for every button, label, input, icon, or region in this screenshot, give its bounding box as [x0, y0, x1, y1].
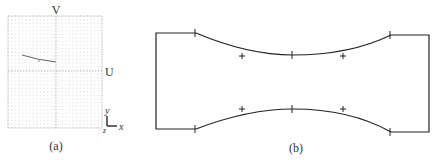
center-markers	[239, 53, 346, 112]
triad-x-label: x	[118, 121, 124, 132]
figure: V U y x z (a) (b)	[0, 0, 437, 165]
u-axis-label: U	[105, 65, 114, 79]
panel-a-grid	[8, 16, 102, 128]
triad-y-label: y	[104, 105, 110, 116]
triad-z-label: z	[102, 126, 107, 135]
v-axis-label: V	[52, 3, 61, 17]
coordinate-triad: y x z	[102, 105, 124, 135]
caption-b: (b)	[289, 141, 303, 155]
caption-a: (a)	[49, 139, 62, 153]
panel-a-frame	[8, 16, 102, 128]
panel-b-outline	[156, 33, 429, 132]
